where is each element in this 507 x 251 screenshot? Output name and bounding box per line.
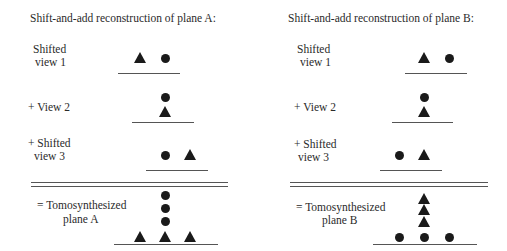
- baseline-divider: [392, 122, 453, 123]
- triangle-icon: [159, 106, 171, 117]
- triangle-icon: [184, 231, 196, 242]
- circle-icon: [161, 217, 170, 226]
- triangle-icon: [134, 52, 146, 63]
- triangle-icon: [159, 231, 171, 242]
- sum-line-lower: [290, 186, 488, 187]
- row-label-line2: view 3: [298, 151, 329, 164]
- row-label-line1: + View 2: [294, 101, 336, 114]
- triangle-icon: [418, 149, 430, 160]
- row-label-line1: Shifted: [33, 43, 66, 56]
- baseline-divider: [146, 170, 208, 171]
- sum-line-upper: [31, 182, 228, 183]
- row-label-line1: + View 2: [28, 101, 70, 114]
- row-label-line1: Shifted: [297, 43, 330, 56]
- circle-icon: [161, 54, 170, 63]
- row-label-line1: + Shifted: [28, 137, 71, 150]
- circle-icon: [161, 204, 170, 213]
- row-label-line1: + Shifted: [294, 138, 337, 151]
- circle-icon: [445, 233, 454, 242]
- circle-icon: [395, 151, 404, 160]
- circle-icon: [420, 233, 429, 242]
- sum-line-lower: [31, 186, 228, 187]
- result-label-line1: = Tomosynthesized: [296, 201, 385, 214]
- circle-icon: [161, 191, 170, 200]
- panel-plane-b: Shift-and-add reconstruction of plane B:…: [254, 0, 507, 251]
- baseline-divider: [405, 73, 467, 74]
- triangle-icon: [418, 106, 430, 117]
- circle-icon: [395, 233, 404, 242]
- triangle-icon: [418, 193, 430, 204]
- triangle-icon: [184, 149, 196, 160]
- circle-icon: [161, 93, 170, 102]
- baseline-divider: [114, 244, 218, 245]
- triangle-icon: [134, 231, 146, 242]
- panel-title: Shift-and-add reconstruction of plane A:: [30, 12, 216, 25]
- row-label-line2: view 3: [34, 150, 65, 163]
- triangle-icon: [418, 52, 430, 63]
- result-label-line1: = Tomosynthesized: [37, 199, 126, 212]
- circle-icon: [445, 54, 454, 63]
- triangle-icon: [418, 204, 430, 215]
- result-label-line2: plane B: [322, 214, 357, 227]
- circle-icon: [161, 151, 170, 160]
- result-label-line2: plane A: [63, 213, 98, 226]
- sum-line-upper: [290, 182, 488, 183]
- panel-title: Shift-and-add reconstruction of plane B:: [288, 12, 474, 25]
- row-label-line2: view 1: [300, 56, 331, 69]
- triangle-icon: [418, 216, 430, 227]
- row-label-line2: view 1: [35, 56, 66, 69]
- baseline-divider: [373, 244, 477, 245]
- panel-plane-a: Shift-and-add reconstruction of plane A:…: [0, 0, 254, 251]
- baseline-divider: [132, 122, 194, 123]
- baseline-divider: [118, 73, 180, 74]
- circle-icon: [420, 93, 429, 102]
- baseline-divider: [380, 170, 442, 171]
